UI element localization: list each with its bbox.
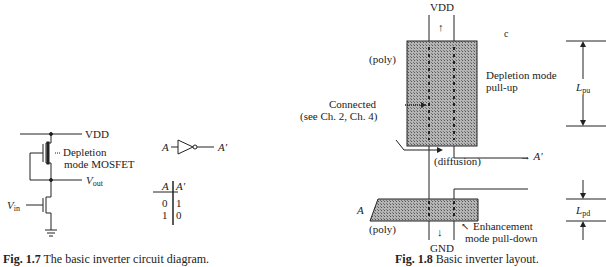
truth-table-cell: 0 — [162, 197, 168, 209]
vin-label: Vin — [7, 199, 20, 213]
figure-1-7-caption: Fig. 1.7 The basic inverter circuit diag… — [3, 252, 209, 267]
enhancement-pointer-icon: ↖ — [461, 221, 469, 232]
vdd-up-arrow-icon: ↑ — [438, 21, 444, 33]
gate-output-label: A′ — [217, 141, 228, 153]
diffusion-label: (diffusion) — [434, 155, 481, 168]
depletion-label-2: mode MOSFET — [64, 158, 135, 170]
gnd-down-arrow-icon: ↓ — [437, 226, 443, 238]
inverter-gate-symbol — [171, 140, 214, 154]
depletion-label-1: Depletion — [63, 146, 107, 158]
enhancement-label-2: mode pull-down — [465, 232, 538, 244]
vdd-label: VDD — [85, 128, 109, 140]
enhancement-label-1: Enhancement — [473, 220, 533, 232]
truth-table-cell: 0 — [176, 209, 182, 221]
truth-table-header-a-prime: A′ — [175, 180, 186, 192]
poly-top-label: (poly) — [369, 53, 396, 66]
gate-input-label: A — [161, 141, 169, 153]
poly-bottom-label: (poly) — [369, 223, 396, 236]
connected-label-1: Connected — [329, 98, 377, 110]
depletion-pullup-label-1: Depletion mode — [486, 69, 557, 81]
truth-table-header-a: A — [161, 180, 169, 192]
stray-mark: c — [504, 28, 509, 39]
truth-table-cell: 1 — [162, 209, 168, 221]
output-a-prime-label: → A′ — [520, 150, 543, 162]
input-a-label: A — [356, 204, 364, 216]
figure-1-8-caption: Fig. 1.8 Basic inverter layout. — [395, 252, 539, 267]
depletion-pullup-label-2: pull-up — [486, 81, 518, 93]
truth-table-cell: 1 — [176, 197, 182, 209]
layout-vdd-label: VDD — [430, 1, 454, 13]
vout-label: Vout — [86, 174, 104, 188]
l-pu-label: Lpu — [575, 81, 590, 95]
inverter-layout-diagram — [370, 15, 606, 240]
connected-label-2: (see Ch. 2, Ch. 4) — [300, 110, 378, 123]
l-pd-label: Lpd — [575, 204, 590, 218]
